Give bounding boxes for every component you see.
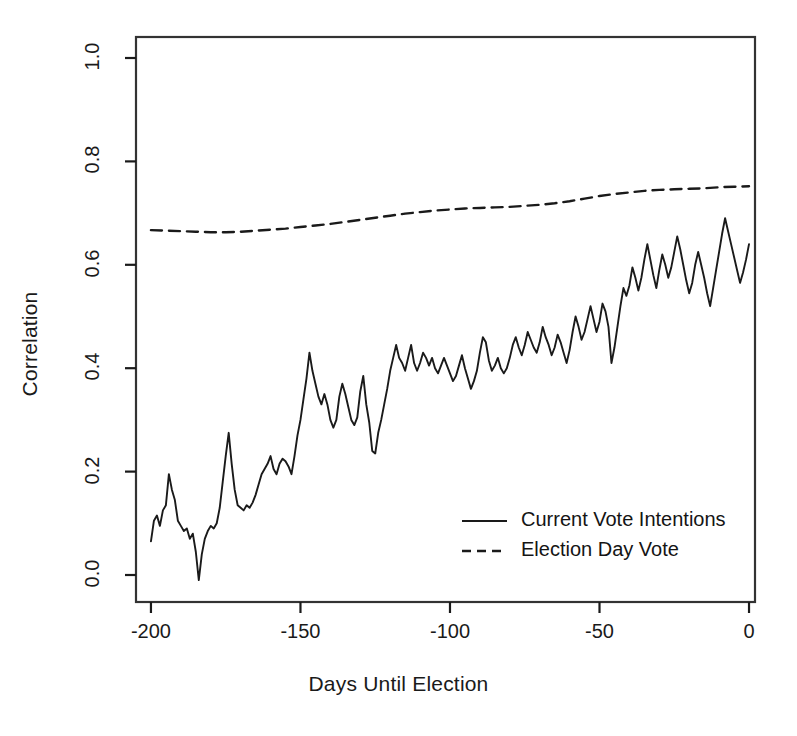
y-tick-label: 0.0: [81, 544, 104, 604]
y-axis-title: Correlation: [18, 254, 42, 434]
x-axis-ticks: [151, 602, 749, 613]
y-axis-ticks: [125, 58, 136, 575]
legend-label-1: Current Vote Intentions: [521, 508, 726, 531]
x-axis-title: Days Until Election: [0, 672, 797, 696]
x-tick-label: 0: [743, 620, 754, 643]
x-tick-label: -200: [131, 620, 171, 643]
correlation-line-chart: [0, 0, 797, 736]
legend-label-2: Election Day Vote: [521, 538, 679, 561]
x-tick-label: -50: [585, 620, 614, 643]
x-tick-label: -150: [280, 620, 320, 643]
series-line-2: [151, 186, 749, 232]
y-tick-label: 0.6: [81, 233, 104, 293]
y-tick-label: 0.8: [81, 130, 104, 190]
x-tick-label: -100: [430, 620, 470, 643]
y-tick-label: 0.2: [81, 440, 104, 500]
y-tick-label: 1.0: [81, 27, 104, 87]
legend-line-samples: [462, 521, 507, 551]
chart-figure: Correlation Days Until Election -200-150…: [0, 0, 797, 736]
y-tick-label: 0.4: [81, 337, 104, 397]
